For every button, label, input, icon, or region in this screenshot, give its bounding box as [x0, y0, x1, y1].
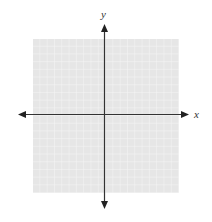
y-axis-down-arrow-icon	[101, 201, 108, 209]
x-axis-left-arrow-icon	[18, 111, 26, 118]
coordinate-plane: x y	[0, 0, 212, 222]
x-axis-right-arrow-icon	[181, 111, 189, 118]
y-axis-label: y	[100, 8, 106, 20]
grid	[33, 39, 179, 193]
y-axis-up-arrow-icon	[101, 24, 108, 32]
x-axis-label: x	[193, 108, 199, 120]
